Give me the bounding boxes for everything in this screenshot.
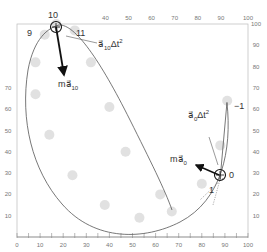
ball-position [134,213,144,223]
bottom-tick-label: 60 [152,242,159,248]
force-arrow-0 [196,165,219,175]
right-axis: 102030405060708090100 [251,21,262,219]
top-tick-label: 90 [218,15,225,21]
bottom-tick-label: 50 [129,242,136,248]
left-axis: 10203040506070 [5,85,12,219]
ball-position [121,147,131,157]
label-dv-0: a⃗0Δt2 [188,109,210,122]
top-axis: 405060708090100 [102,15,254,21]
label-point-0: 0 [229,170,234,180]
bottom-tick-label: 0 [15,242,19,248]
left-tick-label: 40 [5,149,12,155]
left-tick-label: 60 [5,106,12,112]
top-tick-label: 80 [194,15,201,21]
left-tick-label: 10 [5,213,12,219]
right-tick-label: 30 [253,170,260,176]
bottom-tick-label: 90 [222,242,229,248]
label-point-9: 9 [27,28,32,38]
left-tick-label: 50 [5,128,12,134]
right-tick-label: 40 [253,149,260,155]
bottom-tick-label: 30 [83,242,90,248]
right-tick-label: 80 [253,64,260,70]
ball-position [67,170,77,180]
ball-position [100,200,110,210]
right-tick-label: 70 [253,85,260,91]
trajectory-diagram: 0102030405060708090100 10203040506070 10… [0,0,267,252]
left-tick-label: 20 [5,191,12,197]
right-tick-label: 60 [253,106,260,112]
bottom-tick-label: 20 [60,242,67,248]
marker-point-10 [51,22,62,33]
ball-position [104,102,114,112]
label-point-10: 10 [48,10,58,20]
right-tick-label: 90 [253,42,260,48]
dv0-leader [209,137,218,165]
left-tick-label: 30 [5,170,12,176]
ball-position [30,89,40,99]
label-force-0: ma⃗0 [170,154,188,166]
ball-positions [30,19,232,223]
bottom-tick-label: 10 [37,242,44,248]
ball-position [44,130,54,140]
label-point-minus1: −1 [234,101,244,111]
trajectory-curve [26,25,229,234]
top-tick-label: 100 [243,15,254,21]
bottom-tick-label: 70 [175,242,182,248]
label-point-11: 11 [76,28,85,38]
ball-position [197,179,207,189]
marker-point-0 [215,170,226,181]
bottom-axis: 0102030405060708090100 [15,233,253,248]
ball-position [40,30,50,40]
right-tick-label: 10 [253,213,260,219]
label-force-10: ma⃗10 [58,79,79,91]
top-tick-label: 40 [102,15,109,21]
ball-position [167,206,177,216]
top-tick-label: 50 [125,15,132,21]
right-tick-label: 20 [253,191,260,197]
right-tick-label: 50 [253,128,260,134]
right-tick-label: 100 [251,21,262,27]
force-arrow-10 [56,27,64,75]
label-point-1: 1 [209,185,214,195]
label-dv-10: a⃗10Δt2 [98,38,123,51]
bottom-tick-label: 100 [243,242,254,248]
top-tick-label: 70 [171,15,178,21]
top-tick-label: 60 [148,15,155,21]
ball-position [30,57,40,67]
bottom-tick-label: 80 [198,242,205,248]
ball-position [86,57,96,67]
left-tick-label: 70 [5,85,12,91]
bottom-tick-label: 40 [106,242,113,248]
